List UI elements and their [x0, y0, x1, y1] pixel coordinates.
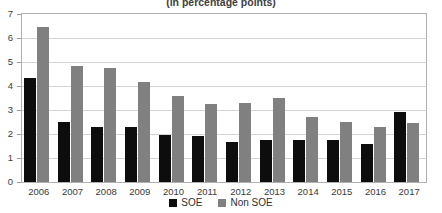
bar-non-soe-2010[interactable] — [172, 96, 184, 182]
x-tick-label: 2014 — [291, 186, 325, 197]
bar-non-soe-2014[interactable] — [306, 117, 318, 182]
x-tick-label: 2007 — [56, 186, 90, 197]
y-tick-mark — [17, 182, 21, 183]
bar-group — [291, 14, 325, 182]
y-tick-label: 0 — [8, 177, 13, 187]
bar-soe-2015[interactable] — [327, 140, 339, 182]
x-tick-label: 2011 — [190, 186, 224, 197]
bar-group — [157, 14, 191, 182]
bar-soe-2010[interactable] — [159, 135, 171, 182]
legend-label: Non SOE — [230, 198, 272, 208]
legend-item-soe[interactable]: SOE — [169, 198, 202, 208]
bar-soe-2014[interactable] — [293, 140, 305, 182]
bar-non-soe-2008[interactable] — [104, 68, 116, 182]
y-tick-mark — [17, 38, 21, 39]
chart-title: (in percentage points) — [0, 0, 442, 8]
bar-soe-2007[interactable] — [58, 122, 70, 182]
bar-group — [325, 14, 359, 182]
y-tick-mark — [17, 62, 21, 63]
bar-series-layer — [22, 14, 426, 182]
y-tick-mark — [17, 158, 21, 159]
y-tick-label: 3 — [8, 105, 13, 115]
bar-soe-2012[interactable] — [226, 142, 238, 182]
bar-group — [224, 14, 258, 182]
bar-group — [190, 14, 224, 182]
legend-item-non-soe[interactable]: Non SOE — [218, 198, 272, 208]
bar-non-soe-2016[interactable] — [374, 127, 386, 182]
y-axis: 01234567 — [0, 13, 17, 183]
x-tick-label: 2010 — [157, 186, 191, 197]
y-tick-mark — [17, 110, 21, 111]
x-tick-label: 2016 — [359, 186, 393, 197]
bar-non-soe-2009[interactable] — [138, 82, 150, 182]
bar-group — [359, 14, 393, 182]
legend-swatch-icon — [169, 199, 177, 207]
bar-non-soe-2015[interactable] — [340, 122, 352, 182]
legend-label: SOE — [181, 198, 202, 208]
y-tick-mark — [17, 134, 21, 135]
bar-soe-2016[interactable] — [361, 144, 373, 182]
x-tick-label: 2013 — [258, 186, 292, 197]
bar-group — [56, 14, 90, 182]
bar-soe-2017[interactable] — [394, 112, 406, 182]
legend-swatch-icon — [218, 199, 226, 207]
y-tick-mark — [17, 14, 21, 15]
bar-soe-2008[interactable] — [91, 127, 103, 182]
y-tick-label: 7 — [8, 9, 13, 19]
bar-group — [392, 14, 426, 182]
bar-group — [22, 14, 56, 182]
bar-group — [258, 14, 292, 182]
y-tick-label: 5 — [8, 57, 13, 67]
y-tick-label: 6 — [8, 33, 13, 43]
bar-soe-2009[interactable] — [125, 127, 137, 182]
bar-non-soe-2006[interactable] — [37, 27, 49, 182]
bar-non-soe-2007[interactable] — [71, 66, 83, 182]
bar-non-soe-2013[interactable] — [273, 98, 285, 182]
bar-group — [89, 14, 123, 182]
x-tick-label: 2009 — [123, 186, 157, 197]
y-tick-label: 4 — [8, 81, 13, 91]
bar-non-soe-2011[interactable] — [205, 104, 217, 182]
x-tick-label: 2012 — [224, 186, 258, 197]
bar-group — [123, 14, 157, 182]
bar-soe-2013[interactable] — [260, 140, 272, 182]
bar-non-soe-2017[interactable] — [407, 123, 419, 182]
x-tick-label: 2008 — [89, 186, 123, 197]
y-tick-mark — [17, 86, 21, 87]
chart-page: (in percentage points) 01234567 20062007… — [0, 0, 442, 213]
bar-soe-2011[interactable] — [192, 136, 204, 182]
chart-legend: SOENon SOE — [0, 198, 442, 208]
x-tick-label: 2017 — [392, 186, 426, 197]
x-tick-label: 2015 — [325, 186, 359, 197]
y-tick-label: 2 — [8, 129, 13, 139]
bar-soe-2006[interactable] — [24, 78, 36, 182]
y-tick-label: 1 — [8, 153, 13, 163]
x-tick-label: 2006 — [22, 186, 56, 197]
bar-non-soe-2012[interactable] — [239, 103, 251, 182]
